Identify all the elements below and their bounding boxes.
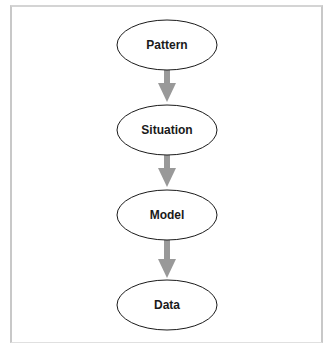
node-data: Data	[117, 280, 217, 330]
flow-diagram: Pattern Situation Model Data	[0, 0, 327, 345]
node-situation: Situation	[117, 105, 217, 155]
arrow-pattern-to-situation	[158, 70, 176, 102]
node-label-situation: Situation	[141, 123, 192, 137]
node-label-data: Data	[154, 298, 180, 312]
node-label-model: Model	[150, 208, 185, 222]
node-pattern: Pattern	[117, 20, 217, 70]
node-model: Model	[117, 190, 217, 240]
arrow-model-to-data	[158, 240, 176, 278]
arrow-situation-to-model	[158, 155, 176, 187]
node-label-pattern: Pattern	[146, 38, 187, 52]
